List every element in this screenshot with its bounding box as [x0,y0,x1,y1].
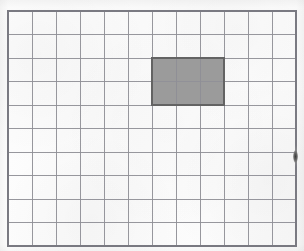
grid-svg [7,10,297,247]
grid-lines [8,11,296,246]
shaded-cell [152,82,176,106]
shaded-cell [200,82,224,106]
shaded-cell [200,58,224,82]
shaded-cell [152,58,176,82]
shaded-cell [176,82,200,106]
shaded-cell [176,58,200,82]
worksheet-page [0,0,304,251]
grid-container [7,10,297,247]
